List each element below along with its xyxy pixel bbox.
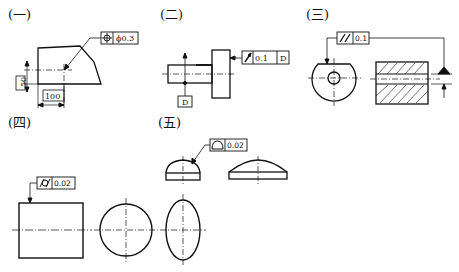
figure-5-part xyxy=(160,139,287,265)
fcf-2-value: 0.1 xyxy=(255,54,268,63)
surface-profile-icon xyxy=(212,141,223,149)
fcf-5-value: 0.02 xyxy=(227,141,244,150)
drawing-canvas: ϕ0.3 50 100 0.1 D D 0.1 0.02 0.02 xyxy=(0,0,459,272)
cylindricity-icon xyxy=(40,179,50,187)
fcf-2-datum: D xyxy=(280,54,286,63)
circular-runout-icon xyxy=(245,53,251,62)
datum-d-label: D xyxy=(182,98,188,107)
hatching xyxy=(376,63,428,103)
parallelism-icon xyxy=(340,34,350,42)
fcf-3-value: 0.1 xyxy=(355,34,367,43)
fcf-4-value: 0.02 xyxy=(54,179,71,188)
figure-1-part xyxy=(16,32,138,108)
dim-50: 50 xyxy=(19,77,28,87)
position-icon xyxy=(102,33,112,43)
figure-4-part xyxy=(12,177,158,262)
fcf-1-value: ϕ0.3 xyxy=(116,34,134,43)
dim-100: 100 xyxy=(45,92,60,101)
figure-3-part xyxy=(308,32,452,106)
